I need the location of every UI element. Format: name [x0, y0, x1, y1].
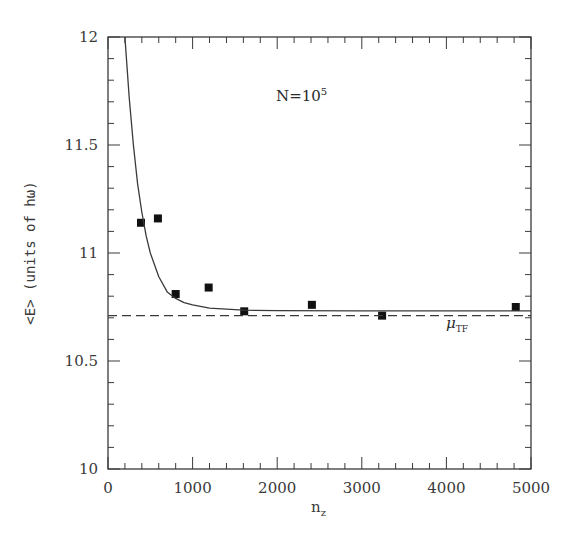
y-axis-label: <E> (units of hω): [22, 181, 38, 324]
annotation-base: N=10: [276, 87, 321, 105]
y-tick-label: 12: [79, 28, 98, 46]
x-tick-label: 0: [103, 479, 113, 497]
x-tick-label: 1000: [174, 479, 212, 497]
data-point-marker: [512, 303, 520, 311]
x-tick-label: 4000: [427, 479, 465, 497]
mu-tf-label: μTF: [446, 314, 468, 334]
x-axis-label-main: n: [311, 498, 321, 516]
y-tick-label: 10.5: [65, 352, 98, 370]
particle-count-annotation: N=105: [276, 86, 327, 105]
data-point-marker: [308, 301, 316, 309]
y-tick-label: 11.5: [65, 136, 98, 154]
x-axis-label: nz: [311, 498, 326, 518]
mu-symbol: μ: [446, 314, 456, 332]
mu-subscript: TF: [456, 324, 468, 334]
data-series: [108, 37, 531, 320]
y-tick-label: 11: [79, 244, 98, 262]
x-tick-label: 5000: [512, 479, 550, 497]
fit-curve: [125, 37, 531, 311]
x-tick-label: 2000: [258, 479, 296, 497]
data-point-marker: [240, 307, 248, 315]
x-tick-label: 3000: [343, 479, 381, 497]
annotation-exponent: 5: [321, 86, 327, 97]
y-tick-label: 10: [79, 460, 98, 478]
data-point-marker: [154, 214, 162, 222]
x-axis-label-sub: z: [321, 507, 326, 518]
chart-canvas: 0100020003000400050001010.51111.512: [0, 0, 577, 536]
data-point-marker: [205, 284, 213, 292]
